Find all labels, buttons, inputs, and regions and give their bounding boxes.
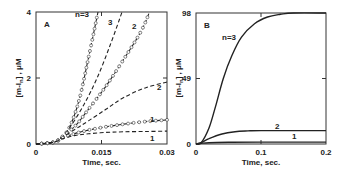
- data-point-circle: [93, 27, 96, 30]
- ytick-a-2: 2: [27, 74, 32, 83]
- data-point-circle: [76, 105, 79, 108]
- panel-a-frame: [36, 12, 167, 144]
- ylabel-b: [m-In] , μM: [174, 58, 184, 98]
- data-point-circle: [92, 33, 95, 36]
- panel-b-frame: [196, 13, 326, 144]
- panel-b: 98 49 0 0 0.1 0.2 Time, sec. [m-In] , μM…: [174, 9, 332, 167]
- data-point-circle: [121, 60, 124, 63]
- data-point-circle: [154, 119, 157, 122]
- xtick-b-0: 0: [194, 148, 199, 157]
- data-point-circle: [87, 55, 90, 58]
- curve-label-b-2: 2: [275, 122, 280, 131]
- data-point-circle: [98, 93, 101, 96]
- data-point-circle: [81, 115, 84, 118]
- data-point-circle: [86, 61, 89, 64]
- data-point-circle: [130, 46, 133, 49]
- data-point-circle: [88, 128, 91, 131]
- data-point-circle: [136, 36, 139, 39]
- data-point-circle: [95, 16, 98, 19]
- data-point-circle: [146, 16, 149, 19]
- curve-label-a-2d: 2: [157, 83, 162, 92]
- data-point-circle: [83, 130, 86, 133]
- data-point-circle: [74, 110, 77, 113]
- data-point-circle: [124, 55, 127, 58]
- curve-label-b-1: 1: [292, 132, 297, 141]
- curve-line: [196, 13, 326, 144]
- data-point-circle: [81, 83, 84, 86]
- data-point-circle: [90, 44, 93, 47]
- xtick-a-mid: 0.015: [91, 148, 112, 157]
- xlabel-b: Time, sec.: [242, 158, 281, 167]
- xlabel-a: Time, sec.: [82, 158, 121, 167]
- data-point-circle: [88, 49, 91, 52]
- data-point-circle: [104, 125, 107, 128]
- data-point-circle: [141, 26, 144, 29]
- panel-letter-b: B: [204, 21, 210, 30]
- data-point-circle: [91, 38, 94, 41]
- curve-line: [36, 12, 122, 144]
- data-point-circle: [139, 31, 142, 34]
- data-point-circle: [72, 116, 75, 119]
- data-point-circle: [95, 97, 98, 100]
- data-point-circle: [138, 121, 141, 124]
- data-point-circle: [77, 99, 80, 102]
- data-point-circle: [80, 88, 83, 91]
- data-point-circle: [160, 119, 163, 122]
- data-point-circle: [85, 66, 88, 69]
- data-point-circle: [132, 121, 135, 124]
- data-point-circle: [144, 21, 147, 24]
- data-point-circle: [127, 51, 130, 54]
- data-point-circle: [74, 124, 77, 127]
- data-point-circle: [94, 22, 97, 25]
- data-point-circle: [83, 77, 86, 80]
- data-point-circle: [115, 70, 118, 73]
- data-point-circle: [166, 118, 169, 121]
- data-point-circle: [77, 131, 80, 134]
- ylabel-a: [m-In] , μM: [14, 58, 24, 98]
- data-point-circle: [79, 94, 82, 97]
- curve-label-b-n3: n=3: [222, 33, 237, 42]
- xtick-a-0: 0: [34, 148, 39, 157]
- xtick-a-max: 0.03: [159, 148, 175, 157]
- figure: 4 2 0 0 0.015 0.03 Time, sec. [m-In] , μ…: [0, 0, 343, 174]
- curve-label-a-2c: 2: [132, 22, 137, 31]
- data-point-circle: [93, 127, 96, 130]
- curve-line: [36, 12, 98, 144]
- data-point-circle: [85, 111, 88, 114]
- data-point-circle: [108, 79, 111, 82]
- curve-label-a-1c: 1: [150, 115, 155, 124]
- curve-label-a-n3: n=3: [75, 10, 90, 19]
- panel-b-curves: [196, 13, 326, 144]
- curve-label-a-3: 3: [108, 18, 113, 27]
- ytick-a-4: 4: [27, 8, 32, 17]
- curve-label-a-1d: 1: [150, 134, 155, 143]
- panel-a: 4 2 0 0 0.015 0.03 Time, sec. [m-In] , μ…: [14, 8, 175, 167]
- data-point-circle: [116, 124, 119, 127]
- curve-line: [36, 82, 167, 144]
- xtick-b-max: 0.2: [320, 148, 332, 157]
- data-point-circle: [121, 123, 124, 126]
- panel-letter-a: A: [44, 20, 50, 29]
- data-point-circle: [118, 65, 121, 68]
- ytick-a-0: 0: [27, 140, 32, 149]
- xtick-b-mid: 0.1: [255, 148, 267, 157]
- data-point-circle: [88, 106, 91, 109]
- data-point-circle: [111, 74, 114, 77]
- ytick-b-0: 0: [187, 140, 192, 149]
- data-point-circle: [105, 84, 108, 87]
- data-point-circle: [133, 41, 136, 44]
- ytick-b-98: 98: [182, 9, 191, 18]
- data-point-circle: [78, 120, 81, 123]
- data-point-circle: [110, 124, 113, 127]
- data-point-circle: [127, 122, 130, 125]
- data-point-circle: [102, 88, 105, 91]
- data-point-circle: [99, 126, 102, 129]
- data-point-circle: [143, 120, 146, 123]
- data-point-circle: [92, 102, 95, 105]
- panel-a-curves: [36, 12, 169, 145]
- data-point-circle: [84, 72, 87, 75]
